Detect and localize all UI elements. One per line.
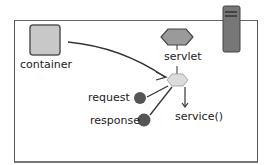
service-method-label: service() (175, 110, 223, 123)
container-to-thread-arrow (68, 42, 165, 77)
container-label: container (20, 58, 72, 71)
servlet-hexagon (161, 29, 193, 45)
request-object (134, 92, 146, 104)
diagram-canvas (0, 0, 269, 165)
thread-hexagon (167, 74, 188, 86)
response-label: response (90, 114, 140, 127)
server-icon (223, 6, 240, 52)
container-box (30, 25, 60, 55)
request-label: request (88, 91, 130, 104)
servlet-label: servlet (164, 50, 202, 63)
